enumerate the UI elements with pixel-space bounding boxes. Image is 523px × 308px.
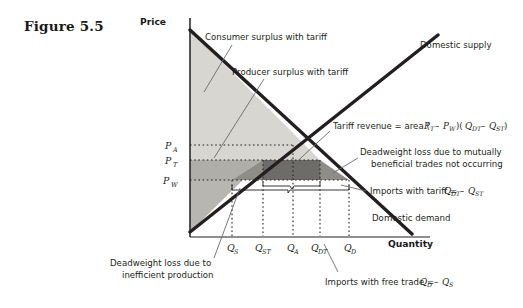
- svg-text:–: –: [481, 121, 485, 131]
- svg-text:Tariff revenue = area (: Tariff revenue = area (: [332, 121, 430, 131]
- svg-text:Imports with free trade =: Imports with free trade =: [325, 277, 434, 287]
- quantity-tick-QS: Q S: [227, 242, 239, 256]
- svg-text:ST: ST: [475, 190, 484, 197]
- price-tick-PT-sub: T: [173, 161, 178, 169]
- svg-text:)(: )(: [456, 121, 463, 131]
- tariff-revenue-region: [263, 160, 320, 180]
- quantity-tick-QS-sub: S: [234, 248, 239, 256]
- tariff-diagram: Price Quantity P A P T P W Q S Q ST Q A …: [0, 0, 523, 308]
- annotation-tariff-revenue: Tariff revenue = area ( P T – P W )( Q D…: [332, 121, 507, 132]
- annotation-deadweight-inefficient-line1: Deadweight loss due to: [110, 258, 211, 268]
- domestic-demand-label: Domestic demand: [372, 213, 451, 223]
- annotation-consumer-surplus: Consumer surplus with tariff: [205, 32, 328, 42]
- quantity-tick-QA-sub: A: [293, 248, 299, 256]
- price-tick-PA-sub: A: [172, 146, 178, 154]
- quantity-tick-QST: Q ST: [255, 242, 271, 256]
- figure-container: Figure 5.5: [0, 0, 523, 308]
- annotation-imports-with-tariff: Imports with tariff = Q DT – Q ST: [370, 186, 484, 197]
- price-tick-PW-sub: W: [171, 181, 178, 189]
- quantity-tick-QDT-sub: DT: [317, 248, 328, 256]
- svg-text:D: D: [426, 281, 432, 288]
- y-axis-label: Price: [140, 16, 166, 27]
- quantity-tick-QDT: Q DT: [311, 242, 328, 256]
- annotation-imports-free-trade: Imports with free trade = Q D – Q S: [325, 277, 453, 288]
- quantity-tick-QST-sub: ST: [262, 248, 271, 256]
- quantity-tick-QA: Q A: [287, 242, 299, 256]
- quantity-tick-QD: Q D: [344, 242, 356, 256]
- svg-text:–: –: [435, 121, 439, 131]
- price-tick-PA: P A: [164, 140, 178, 154]
- price-tick-PW: P W: [162, 175, 178, 189]
- annotation-deadweight-inefficient-line2: inefficient production: [122, 270, 214, 280]
- x-axis-label: Quantity: [388, 238, 433, 249]
- price-tick-PA-base: P: [164, 140, 172, 151]
- svg-text:W: W: [449, 125, 456, 132]
- svg-text:–: –: [434, 277, 438, 287]
- annotation-deadweight-mutual-line1: Deadweight loss due to mutually: [360, 147, 502, 157]
- price-tick-PT: P T: [164, 155, 178, 169]
- imports-tariff-bracket: [263, 182, 320, 189]
- price-tick-PW-base: P: [162, 175, 170, 186]
- svg-text:S: S: [449, 281, 453, 288]
- svg-text:): ): [504, 121, 507, 131]
- domestic-supply-label: Domestic supply: [420, 40, 492, 50]
- svg-text:–: –: [460, 186, 464, 196]
- price-tick-PT-base: P: [164, 155, 172, 166]
- quantity-tick-QD-sub: D: [350, 248, 356, 256]
- annotation-deadweight-mutual-line2: beneficial trades not occurring: [371, 159, 503, 169]
- annotation-producer-surplus: Producer surplus with tariff: [232, 67, 349, 77]
